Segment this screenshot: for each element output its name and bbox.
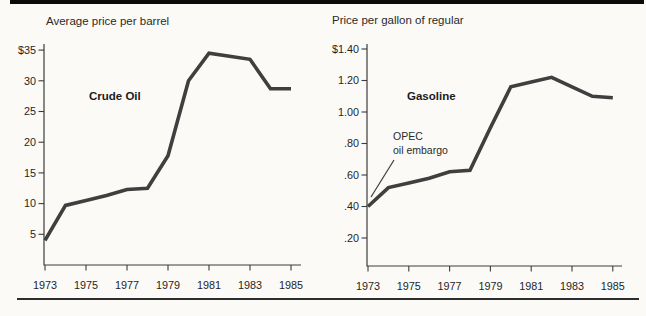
y-tick-label: .60	[344, 169, 359, 181]
y-tick-label: 1.00	[338, 106, 359, 118]
x-tick-label: 1979	[478, 280, 502, 292]
x-tick-label: 1975	[397, 280, 421, 292]
bottom-rule	[17, 298, 639, 300]
y-tick-label: 10	[24, 197, 36, 209]
annotation-line-1: OPEC	[393, 130, 448, 144]
y-tick-label: 15	[24, 167, 36, 179]
y-tick-label: 20	[24, 136, 36, 148]
y-tick-label: $35	[18, 44, 36, 56]
x-tick-label: 1985	[279, 279, 303, 291]
left-axis-title: Average price per barrel	[46, 15, 169, 27]
x-tick-label: 1979	[156, 279, 180, 291]
series-label-crude-oil: Crude Oil	[89, 90, 141, 102]
x-tick-label: 1985	[601, 280, 625, 292]
x-tick-label: 1981	[197, 279, 221, 291]
y-tick-label: .80	[344, 137, 359, 149]
x-tick-label: 1973	[33, 279, 57, 291]
y-tick-label: .40	[344, 200, 359, 212]
x-tick-label: 1981	[519, 280, 543, 292]
x-tick-label: 1977	[115, 279, 139, 291]
x-tick-label: 1983	[560, 280, 584, 292]
x-tick-label: 1975	[74, 279, 98, 291]
y-tick-label: $1.40	[332, 43, 359, 55]
x-tick-label: 1983	[238, 279, 262, 291]
x-tick-label: 1973	[356, 280, 380, 292]
y-tick-label: 5	[30, 228, 36, 240]
y-tick-label: 30	[24, 75, 36, 87]
y-tick-label: 1.20	[338, 74, 359, 86]
charts-canvas: $353025201510519731975197719791981198319…	[0, 0, 646, 316]
figure-oil-gasoline-prices: $353025201510519731975197719791981198319…	[0, 0, 646, 316]
y-tick-label: .20	[344, 232, 359, 244]
annotation-line-2: oil embargo	[393, 144, 448, 158]
opec-embargo-annotation: OPEC oil embargo	[393, 130, 448, 157]
y-tick-label: 25	[24, 105, 36, 117]
crude-oil-line	[45, 53, 291, 240]
x-tick-label: 1977	[438, 280, 462, 292]
right-axis-title: Price per gallon of regular	[332, 14, 464, 26]
series-label-gasoline: Gasoline	[407, 90, 456, 102]
